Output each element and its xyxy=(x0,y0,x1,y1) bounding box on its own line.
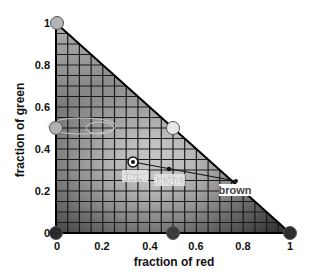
vertex-red-marker xyxy=(284,227,297,240)
vertex-origin-marker xyxy=(50,227,63,240)
x-tick-0: 0 xyxy=(54,240,60,252)
beige-point xyxy=(167,167,171,171)
x-tick-0.4: 0.4 xyxy=(142,240,158,252)
y-tick-0.6: 0.6 xyxy=(35,101,50,113)
brown-point xyxy=(234,179,238,183)
beige-label: beige xyxy=(155,174,184,186)
gray-label: gray xyxy=(123,170,147,182)
x-axis-label: fraction of red xyxy=(134,255,215,269)
x-tick-0.6: 0.6 xyxy=(188,240,203,252)
y-tick-0: 0 xyxy=(44,227,50,239)
chromaticity-chart: gray beige brown 0 0.2 0.4 0.6 0.8 1 0 0… xyxy=(0,0,314,279)
y-tick-0.4: 0.4 xyxy=(35,143,51,155)
midpoint-hyp-marker xyxy=(167,122,180,135)
gray-point xyxy=(128,157,138,167)
midpoint-left-marker xyxy=(50,122,63,135)
x-tick-0.2: 0.2 xyxy=(94,240,109,252)
midpoint-bottom-marker xyxy=(167,227,180,240)
y-tick-1: 1 xyxy=(44,17,50,29)
y-axis-label: fraction of green xyxy=(13,83,27,178)
x-axis-ticks: 0 0.2 0.4 0.6 0.8 1 xyxy=(54,240,293,252)
x-tick-1: 1 xyxy=(287,240,293,252)
brown-label: brown xyxy=(219,184,252,196)
y-tick-0.8: 0.8 xyxy=(35,59,50,71)
vertex-green-marker xyxy=(51,17,64,30)
y-tick-0.2: 0.2 xyxy=(35,185,50,197)
x-tick-0.8: 0.8 xyxy=(235,240,250,252)
